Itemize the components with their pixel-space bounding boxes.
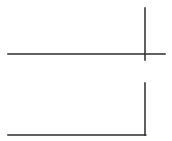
line-diagram — [0, 0, 172, 141]
diagram-canvas — [0, 0, 172, 141]
